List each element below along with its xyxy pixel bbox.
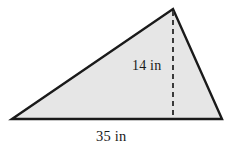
height-label: 14 in xyxy=(132,59,161,73)
base-label: 35 in xyxy=(96,129,126,144)
triangle-shape xyxy=(12,9,222,119)
